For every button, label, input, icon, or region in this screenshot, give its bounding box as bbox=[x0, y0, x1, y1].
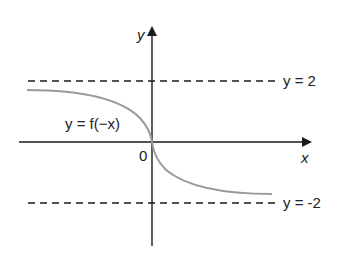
origin-label: 0 bbox=[139, 147, 147, 164]
x-axis-label: x bbox=[300, 149, 309, 166]
y-axis-label: y bbox=[136, 26, 146, 43]
curve-label: y = f(−x) bbox=[65, 115, 120, 132]
graph-canvas: y x 0 y = 2 y = -2 y = f(−x) bbox=[0, 0, 347, 254]
asymptote-upper-label: y = 2 bbox=[283, 72, 316, 89]
asymptote-lower-label: y = -2 bbox=[283, 194, 321, 211]
